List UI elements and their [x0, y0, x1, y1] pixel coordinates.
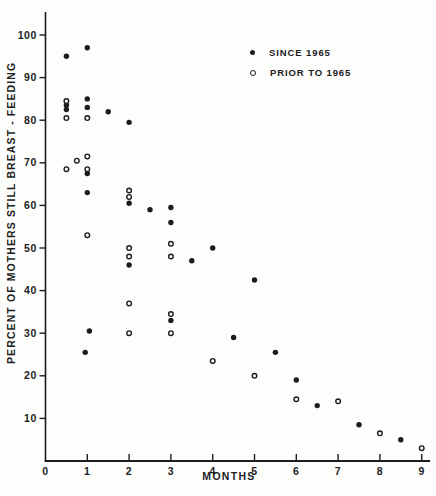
- data-point-open: [127, 301, 132, 306]
- data-point-filled: [398, 437, 403, 442]
- data-point-filled: [85, 45, 90, 50]
- data-point-open: [419, 446, 424, 451]
- data-point-filled: [356, 422, 361, 427]
- x-tick-label: 9: [418, 465, 424, 477]
- open-circle-icon: [250, 70, 256, 76]
- data-point-filled: [85, 190, 90, 195]
- x-axis-title: MONTHS: [129, 470, 329, 482]
- breastfeeding-duration-chart: 1020304050607080901000123456789 PERCENT …: [0, 0, 436, 496]
- data-point-filled: [273, 350, 278, 355]
- data-point-open: [378, 431, 383, 436]
- data-point-open: [64, 167, 69, 172]
- data-point-filled: [126, 201, 131, 206]
- legend-label-since-1965: SINCE 1965: [269, 47, 331, 58]
- data-point-open: [127, 195, 132, 200]
- filled-circle-icon: [250, 50, 255, 55]
- data-point-open: [127, 331, 132, 336]
- y-tick-label: 20: [24, 369, 37, 381]
- data-point-open: [169, 241, 174, 246]
- y-tick-label: 70: [24, 156, 37, 168]
- x-tick-label: 1: [84, 465, 90, 477]
- data-point-filled: [252, 277, 257, 282]
- y-tick-label: 100: [18, 29, 37, 41]
- data-point-filled: [83, 350, 88, 355]
- y-tick-label: 90: [24, 71, 37, 83]
- data-point-filled: [106, 109, 111, 114]
- legend-label-prior-1965: PRIOR TO 1965: [270, 67, 351, 78]
- data-point-open: [169, 254, 174, 259]
- data-points-since-1965: [64, 45, 404, 442]
- data-point-filled: [85, 96, 90, 101]
- data-point-open: [64, 99, 69, 104]
- data-point-filled: [126, 120, 131, 125]
- axes: [45, 12, 430, 461]
- data-point-open: [294, 397, 299, 402]
- data-point-filled: [126, 262, 131, 267]
- data-point-filled: [168, 318, 173, 323]
- data-point-open: [64, 116, 69, 121]
- chart-legend: SINCE 1965 PRIOR TO 1965: [250, 47, 351, 78]
- data-points-prior-to-1965: [64, 99, 424, 451]
- data-point-open: [85, 154, 90, 159]
- x-tick-label: 8: [377, 465, 383, 477]
- y-tick-label: 50: [24, 242, 37, 254]
- data-point-open: [85, 116, 90, 121]
- data-point-filled: [294, 377, 299, 382]
- data-point-filled: [189, 258, 194, 263]
- data-point-filled: [85, 105, 90, 110]
- data-point-filled: [210, 245, 215, 250]
- data-point-filled: [231, 335, 236, 340]
- y-tick-label: 40: [24, 284, 37, 296]
- y-axis-ticks: 102030405060708090100: [18, 29, 46, 424]
- data-point-filled: [168, 220, 173, 225]
- y-axis-title: PERCENT OF MOTHERS STILL BREAST - FEEDIN…: [5, 64, 17, 364]
- y-tick-label: 10: [24, 412, 37, 424]
- legend-item-since-1965: SINCE 1965: [250, 47, 351, 58]
- data-point-open: [85, 233, 90, 238]
- y-tick-label: 60: [24, 199, 37, 211]
- data-point-open: [127, 246, 132, 251]
- data-point-filled: [315, 403, 320, 408]
- data-point-open: [252, 374, 257, 379]
- y-tick-label: 30: [24, 327, 37, 339]
- data-point-open: [127, 254, 132, 259]
- chart-canvas: 1020304050607080901000123456789: [0, 0, 436, 496]
- legend-item-prior-1965: PRIOR TO 1965: [250, 67, 351, 78]
- data-point-filled: [87, 328, 92, 333]
- x-tick-label: 0: [42, 465, 48, 477]
- data-point-open: [169, 331, 174, 336]
- data-point-open: [169, 312, 174, 317]
- data-point-open: [75, 158, 80, 163]
- data-point-filled: [147, 207, 152, 212]
- data-point-open: [336, 399, 341, 404]
- y-tick-label: 80: [24, 114, 37, 126]
- data-point-filled: [64, 107, 69, 112]
- data-point-open: [127, 188, 132, 193]
- data-point-filled: [168, 205, 173, 210]
- data-point-open: [85, 167, 90, 172]
- x-tick-label: 7: [335, 465, 341, 477]
- data-point-filled: [64, 54, 69, 59]
- data-point-open: [210, 359, 215, 364]
